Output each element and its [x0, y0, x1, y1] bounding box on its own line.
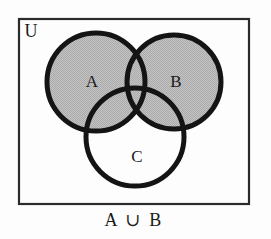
- diagram-caption: A ∪ B: [104, 210, 163, 230]
- set-label-c: C: [131, 147, 143, 166]
- venn-diagram-svg: U A B C A ∪ B: [0, 0, 271, 239]
- venn-diagram-canvas: U A B C A ∪ B: [0, 0, 271, 239]
- universe-label: U: [25, 21, 38, 41]
- set-label-b: B: [170, 72, 182, 91]
- set-label-a: A: [86, 72, 99, 91]
